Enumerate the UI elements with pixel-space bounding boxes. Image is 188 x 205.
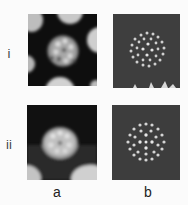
panel-ii-b-model: [112, 105, 180, 180]
column-label-a: a: [47, 184, 67, 200]
panel-i-a-micrograph: [28, 14, 97, 86]
row-label-ii: ii: [4, 137, 14, 152]
panel-ii-a-micrograph: [27, 105, 97, 180]
column-label-b: b: [138, 184, 158, 200]
row-label-i: i: [4, 46, 14, 61]
panel-i-b-model: [113, 14, 180, 88]
